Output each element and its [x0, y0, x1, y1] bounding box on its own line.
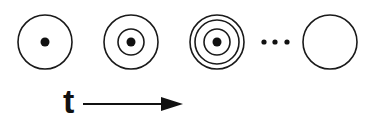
time-label: t — [63, 84, 74, 118]
ring — [303, 15, 357, 69]
ellipsis-dot — [261, 39, 266, 44]
center-dot — [41, 38, 50, 47]
center-dot — [127, 38, 136, 47]
ellipsis-dot — [284, 39, 289, 44]
diagram-canvas — [0, 0, 374, 123]
center-dot — [213, 38, 222, 47]
ellipsis-dot — [272, 39, 277, 44]
ellipsis — [261, 39, 289, 44]
stage-final — [303, 15, 357, 69]
arrow-head-icon — [161, 97, 183, 111]
time-arrow — [83, 97, 183, 111]
